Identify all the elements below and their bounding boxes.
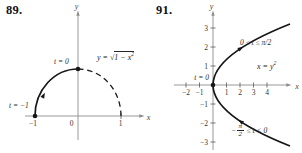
equation-89-radicand: 1 − x2 (114, 51, 134, 62)
tick-label-x-3: 3 (252, 88, 256, 97)
equation-91-base: x = y (257, 62, 274, 71)
x-axis-arrow-icon (286, 83, 291, 86)
tick-label-y-neg3: −3 (200, 138, 208, 147)
tick-label-one: 1 (119, 119, 123, 128)
equation-89: y = √1 − x2 (97, 51, 134, 62)
tick-label-y-neg1: −1 (200, 100, 208, 109)
point-t-neg1-dot (33, 114, 38, 119)
tick-label-x-2: 2 (238, 88, 242, 97)
tick-label-zero: 0 (70, 119, 74, 128)
radicand-text: 1 − x (114, 53, 131, 62)
label-t-neg1: t = −1 (9, 101, 29, 110)
textbook-figure-pair: 89. y x −1 0 1 t = −1 t = 0 y = √1 − x2 … (0, 0, 302, 153)
label-t0: t = 0 (194, 73, 209, 82)
tick-label-x-4: 4 (265, 88, 269, 97)
vertex-t0-dot (211, 83, 216, 88)
x-axis-label: x (294, 82, 299, 91)
tick-label-y-2: 2 (204, 43, 208, 52)
tick-label-neg1: −1 (29, 119, 37, 128)
tick-label-y-1: 1 (204, 62, 208, 71)
pi-over-2-fraction: π 2 (237, 123, 244, 139)
minus-sign: − (231, 127, 236, 135)
semicircle-dashed-arc (78, 69, 121, 116)
equation-89-prefix: y = (97, 53, 110, 62)
figure-91-graph: y x −2 −1 1 2 3 4 3 2 1 −1 −2 −3 (151, 0, 302, 153)
y-axis-label: y (209, 2, 214, 11)
tick-label-y-3: 3 (204, 24, 208, 33)
fraction-numerator: π (239, 123, 243, 130)
tick-label-x-neg2: −2 (182, 88, 190, 97)
tick-label-y-neg2: −2 (200, 119, 208, 128)
tick-label-x-1: 1 (225, 88, 229, 97)
semicircle-solid-arc (35, 69, 78, 116)
figure-89-graph: y x −1 0 1 t = −1 t = 0 (0, 0, 151, 153)
x-axis-arrow-icon (139, 114, 144, 117)
point-t0-dot (76, 67, 81, 72)
y-axis-arrow-icon (211, 11, 214, 16)
label-t0: t = 0 (54, 57, 69, 66)
x-axis-label: x (146, 113, 151, 122)
tick-label-x-neg1: −1 (196, 88, 204, 97)
param-range-lower: − π 2 ≤ t < 0 (231, 123, 267, 139)
param-range-lower-rest: ≤ t < 0 (247, 127, 268, 135)
fraction-denominator: 2 (237, 130, 244, 138)
equation-91-exponent: 2 (274, 60, 277, 66)
radicand-exponent: 2 (131, 51, 134, 57)
y-axis-arrow-icon (76, 11, 79, 16)
equation-91: x = y2 (257, 60, 276, 71)
param-range-upper: 0 ≤ t ≤ π/2 (240, 38, 271, 47)
y-axis-label: y (74, 2, 79, 11)
parabola-upper-branch (213, 24, 290, 85)
